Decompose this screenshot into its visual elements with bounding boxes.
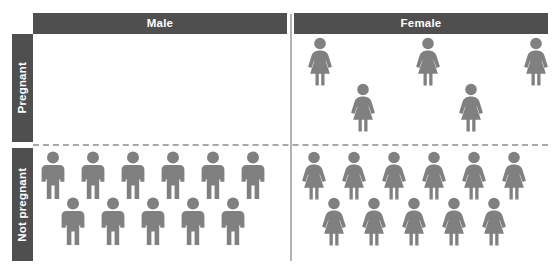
cell-male-pregnant <box>33 34 287 142</box>
cell-male-not-pregnant <box>33 148 287 261</box>
female-figure-icon <box>434 196 474 246</box>
male-figure-icon <box>233 150 273 200</box>
figure-row-top <box>300 36 556 86</box>
male-figure-icon <box>33 150 73 200</box>
row-label-pregnant-text: Pregnant <box>17 62 29 113</box>
figure-row-top <box>294 150 534 200</box>
female-figure-icon <box>334 150 374 200</box>
female-figure-icon <box>494 150 534 200</box>
male-figure-icon <box>213 196 253 246</box>
male-figure-icon <box>173 196 213 246</box>
female-figure-icon <box>300 36 340 86</box>
male-figure-icon <box>113 150 153 200</box>
female-figure-icon <box>394 196 434 246</box>
column-header-female: Female <box>294 13 548 34</box>
row-label-not-pregnant-text: Not pregnant <box>17 168 29 242</box>
female-figure-icon <box>343 82 383 132</box>
pictogram-chart: Male Female Pregnant Not pregnant <box>0 0 560 265</box>
figure-row-top <box>33 150 273 200</box>
cell-female-pregnant <box>294 34 548 142</box>
male-figure-icon <box>73 150 113 200</box>
female-figure-icon <box>354 196 394 246</box>
cell-female-not-pregnant <box>294 148 548 261</box>
male-figure-icon <box>53 196 93 246</box>
female-figure-icon <box>408 36 448 86</box>
row-label-not-pregnant: Not pregnant <box>12 148 33 261</box>
female-figure-icon <box>294 150 334 200</box>
male-figure-icon <box>93 196 133 246</box>
row-label-pregnant: Pregnant <box>12 34 33 142</box>
female-figure-icon <box>414 150 454 200</box>
male-figure-icon <box>153 150 193 200</box>
column-header-male: Male <box>33 13 287 34</box>
figure-row-bottom <box>53 196 253 246</box>
female-figure-icon <box>454 150 494 200</box>
figure-row-bottom <box>343 82 491 132</box>
female-figure-icon <box>516 36 556 86</box>
female-figure-icon <box>374 150 414 200</box>
male-figure-icon <box>133 196 173 246</box>
vertical-divider <box>290 14 292 261</box>
figure-row-bottom <box>314 196 514 246</box>
horizontal-dashed-divider <box>33 144 548 146</box>
column-header-male-label: Male <box>147 18 173 30</box>
column-header-female-label: Female <box>401 18 442 30</box>
female-figure-icon <box>451 82 491 132</box>
male-figure-icon <box>193 150 233 200</box>
female-figure-icon <box>314 196 354 246</box>
female-figure-icon <box>474 196 514 246</box>
